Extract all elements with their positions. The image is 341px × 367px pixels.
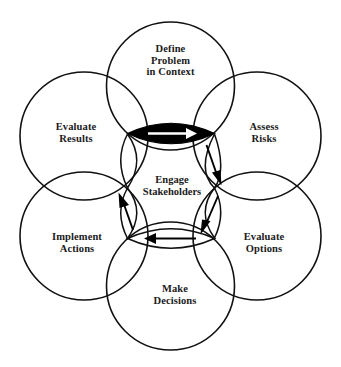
label-line-2: Options [244, 243, 284, 255]
decision-cycle-diagram: Define Problem in Context Assess Risks E… [0, 0, 341, 367]
label-line-3: in Context [147, 66, 195, 78]
label-line-2: Problem [147, 54, 195, 66]
label-line-1: Define [147, 43, 195, 55]
label-line-1: Engage [143, 174, 201, 186]
label-evaluate-options[interactable]: Evaluate Options [244, 231, 284, 254]
label-line-1: Assess [249, 121, 278, 133]
label-make-decisions[interactable]: Make Decisions [154, 283, 197, 306]
label-line-2: Risks [249, 133, 278, 145]
label-line-1: Evaluate [244, 231, 284, 243]
label-assess-risks[interactable]: Assess Risks [249, 121, 278, 144]
label-line-1: Make [154, 283, 197, 295]
label-line-1: Implement [52, 231, 102, 243]
label-define-problem-in-context[interactable]: Define Problem in Context [147, 43, 195, 78]
label-line-2: Results [56, 133, 96, 145]
label-line-2: Actions [52, 243, 102, 255]
label-line-2: Decisions [154, 295, 197, 307]
label-line-2: Stakeholders [143, 186, 201, 198]
label-engage-stakeholders[interactable]: Engage Stakeholders [143, 174, 201, 198]
label-evaluate-results[interactable]: Evaluate Results [56, 121, 96, 144]
label-implement-actions[interactable]: Implement Actions [52, 231, 102, 254]
label-line-1: Evaluate [56, 121, 96, 133]
